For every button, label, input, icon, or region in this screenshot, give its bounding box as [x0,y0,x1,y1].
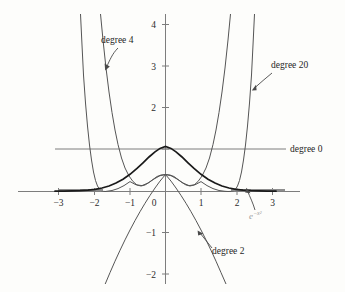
curve-degree-20-right [228,14,255,192]
y-tick-label-3: 3 [151,62,156,72]
y-tick-label-2: 2 [151,103,156,113]
annotation-degree-4-arrow [107,48,119,67]
annotation-degree-4-label: degree 4 [101,35,134,45]
figure-container: −3 −2 −1 0 1 2 3 4 3 2 −1 −2 degree 4 [0,0,345,292]
annotation-degree-0-label: degree 0 [290,144,323,154]
annotation-degree-2-label: degree 2 [212,246,245,256]
x-tick-label-0: 0 [152,198,157,208]
x-tick-label-3: 3 [270,198,275,208]
x-tick-label--1: −1 [125,198,135,208]
x-tick-label-1: 1 [199,198,204,208]
annotation-degree-20-label: degree 20 [271,60,308,70]
annotation-gaussian-label: e−x² [249,210,262,221]
taylor-approximation-chart: −3 −2 −1 0 1 2 3 4 3 2 −1 −2 degree 4 [0,0,345,292]
y-tick-label--1: −1 [146,228,156,238]
annotation-degree-2-arrow [200,233,212,248]
curve-degree-20-center [106,175,228,192]
x-tick-label--2: −2 [89,198,99,208]
x-tick-label--3: −3 [53,198,63,208]
y-tick-label-4: 4 [151,20,156,30]
annotation-degree-20-arrowhead [252,85,257,91]
annotation-gaussian-arrow [248,191,256,210]
x-tick-label-2: 2 [235,198,240,208]
annotation-degree-20-arrow [255,73,273,88]
y-tick-label--2: −2 [146,270,156,280]
